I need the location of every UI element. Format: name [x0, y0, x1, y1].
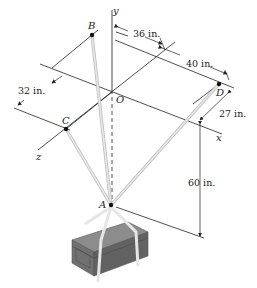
- dim-40: 40 in.: [186, 58, 213, 69]
- point-c: [64, 127, 68, 131]
- point-b: [90, 33, 94, 37]
- axis-label-y: y: [112, 5, 119, 16]
- crate-cable-diagram: B C D A O y x z 36 in. 40 in. 32 in. 27 …: [0, 0, 257, 288]
- crate: [72, 207, 148, 282]
- point-a: [109, 203, 113, 207]
- dim-32: 32 in.: [18, 85, 45, 96]
- label-a: A: [98, 199, 106, 210]
- label-b: B: [87, 20, 95, 31]
- label-c: C: [62, 115, 70, 126]
- axis-label-z: z: [35, 151, 42, 162]
- axis-lines: [14, 10, 234, 238]
- point-d: [217, 82, 221, 86]
- label-d: D: [215, 87, 224, 98]
- diagram-canvas: B C D A O y x z 36 in. 40 in. 32 in. 27 …: [0, 0, 257, 288]
- axis-label-x: x: [216, 132, 222, 143]
- label-o: O: [116, 94, 124, 105]
- dim-36: 36 in.: [133, 28, 160, 39]
- dim-27: 27 in.: [219, 108, 246, 119]
- dim-60: 60 in.: [188, 177, 215, 188]
